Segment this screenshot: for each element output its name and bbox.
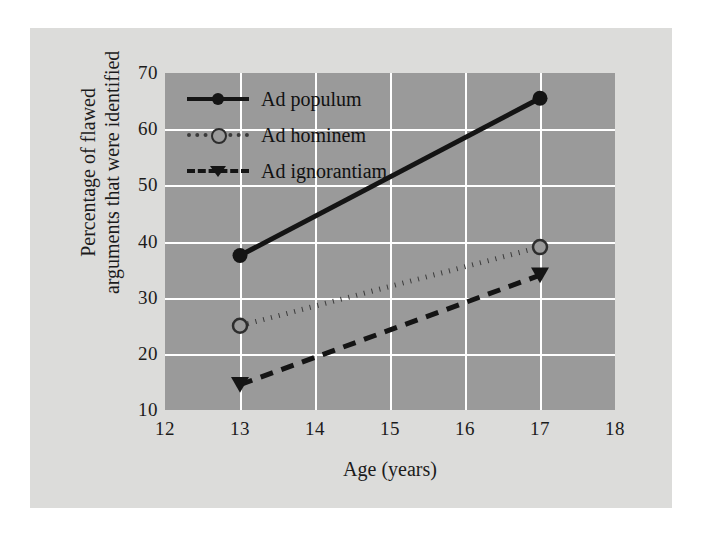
data-point-1-1: [533, 240, 547, 254]
x-tick-13: 13: [215, 418, 265, 440]
x-axis-title: Age (years): [165, 458, 615, 481]
legend-label-ad-ignorantiam: Ad ignorantiam: [261, 160, 387, 183]
y-tick-50: 50: [118, 174, 158, 196]
series-line-1: [240, 247, 540, 326]
plot-area: Ad populum Ad hominem Ad ignorantiam: [165, 73, 615, 410]
x-axis-tick-labels: 12 13 14 15 16 17 18: [165, 418, 615, 448]
legend-item-ad-hominem: Ad hominem: [187, 117, 447, 153]
legend: Ad populum Ad hominem Ad ignorantiam: [187, 81, 447, 189]
y-tick-70: 70: [118, 62, 158, 84]
circle-open-icon: [211, 128, 227, 144]
data-point-1-0: [233, 319, 247, 333]
legend-swatch-dashed-triangle: [187, 160, 249, 182]
y-tick-30: 30: [118, 287, 158, 309]
data-point-0-1: [533, 91, 548, 106]
x-tick-12: 12: [140, 418, 190, 440]
x-tick-18: 18: [590, 418, 640, 440]
y-tick-20: 20: [118, 343, 158, 365]
figure-panel: Percentage of flawed arguments that were…: [30, 28, 672, 508]
data-point-0-0: [233, 248, 248, 263]
triangle-down-icon: [210, 166, 226, 177]
circle-filled-icon: [212, 93, 224, 105]
legend-label-ad-populum: Ad populum: [261, 88, 362, 111]
y-tick-60: 60: [118, 118, 158, 140]
series-line-2: [240, 275, 540, 385]
y-axis-tick-labels: 10 20 30 40 50 60 70: [118, 73, 158, 410]
x-tick-17: 17: [515, 418, 565, 440]
legend-item-ad-ignorantiam: Ad ignorantiam: [187, 153, 447, 189]
legend-label-ad-hominem: Ad hominem: [261, 124, 366, 147]
y-tick-40: 40: [118, 231, 158, 253]
x-tick-14: 14: [290, 418, 340, 440]
y-axis-title-line-1: Percentage of flawed: [76, 2, 100, 342]
legend-swatch-solid-circle: [187, 88, 249, 110]
legend-swatch-dotted-open-circle: [187, 124, 249, 146]
legend-item-ad-populum: Ad populum: [187, 81, 447, 117]
x-tick-16: 16: [440, 418, 490, 440]
x-tick-15: 15: [365, 418, 415, 440]
